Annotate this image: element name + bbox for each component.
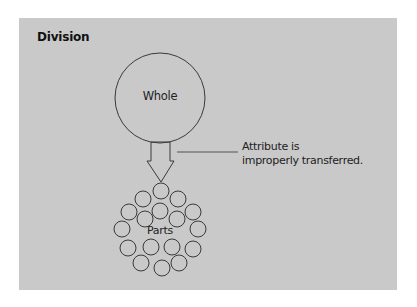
parts-label: Parts xyxy=(140,224,180,237)
part-circle xyxy=(185,204,201,220)
part-circle xyxy=(164,239,180,255)
part-circle xyxy=(135,191,151,207)
part-circle xyxy=(143,239,159,255)
part-circle xyxy=(171,255,187,271)
part-circle xyxy=(133,255,149,271)
annotation-text: Attribute is improperly transferred. xyxy=(242,140,363,168)
annotation-line-1: Attribute is xyxy=(242,140,363,154)
part-circle xyxy=(152,203,168,219)
part-circle xyxy=(154,260,170,276)
part-circle xyxy=(190,221,206,237)
whole-label: Whole xyxy=(138,89,182,103)
down-arrow-icon xyxy=(147,142,174,182)
part-circle xyxy=(114,221,130,237)
part-circle xyxy=(170,191,186,207)
part-circle xyxy=(185,241,201,257)
part-circle xyxy=(121,204,137,220)
part-circle xyxy=(153,183,169,199)
part-circle xyxy=(120,240,136,256)
annotation-line-2: improperly transferred. xyxy=(242,154,363,168)
